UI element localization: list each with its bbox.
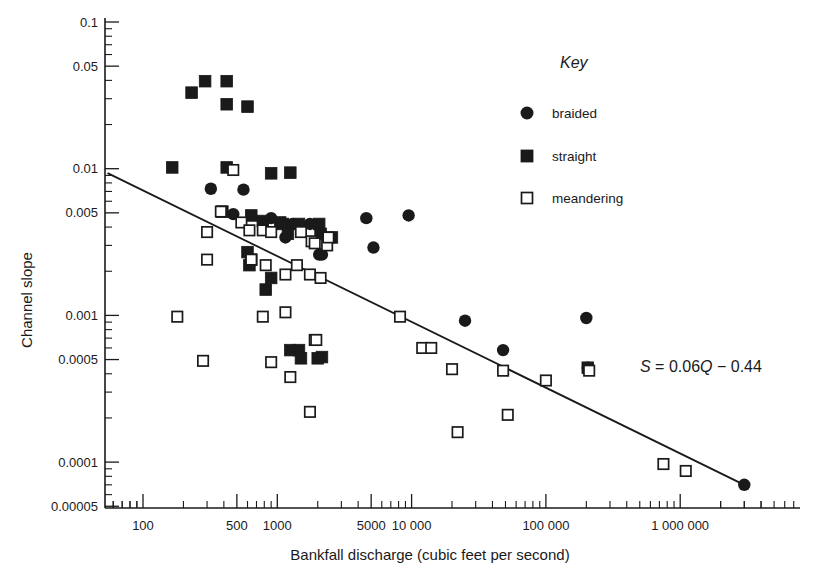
data-point-braided <box>738 479 750 491</box>
data-point-meandering <box>452 427 462 437</box>
y-tick-label: 0.0005 <box>58 352 98 367</box>
data-point-meandering <box>266 357 276 367</box>
data-point-meandering <box>323 232 333 242</box>
x-tick-label: 5000 <box>357 518 386 533</box>
x-tick-label: 10 000 <box>392 518 432 533</box>
y-tick-label: 0.1 <box>80 15 98 30</box>
data-point-meandering <box>584 365 594 375</box>
data-point-straight <box>312 352 324 364</box>
data-point-braided <box>360 212 372 224</box>
data-point-meandering <box>296 227 306 237</box>
data-point-straight <box>221 75 233 87</box>
data-point-meandering <box>261 260 271 270</box>
data-point-meandering <box>285 372 295 382</box>
data-point-meandering <box>305 269 315 279</box>
data-point-meandering <box>503 410 513 420</box>
data-point-braided <box>367 241 379 253</box>
data-point-meandering <box>258 311 268 321</box>
data-point-straight <box>295 352 307 364</box>
data-point-braided <box>402 209 414 221</box>
tick-labels: 1005001000500010 000100 0001 000 0000.10… <box>51 15 709 534</box>
data-point-meandering <box>280 307 290 317</box>
x-tick-label: 1000 <box>263 518 292 533</box>
data-point-straight <box>285 167 297 179</box>
data-point-meandering <box>228 165 238 175</box>
y-tick-label: 0.00005 <box>51 499 98 514</box>
data-point-meandering <box>315 273 325 283</box>
data-point-braided <box>497 344 509 356</box>
data-points <box>166 75 750 491</box>
data-point-meandering <box>658 459 668 469</box>
data-point-meandering <box>426 343 436 353</box>
data-point-meandering <box>246 254 256 264</box>
data-point-meandering <box>498 365 508 375</box>
data-point-meandering <box>202 227 212 237</box>
x-tick-label: 1 000 000 <box>651 518 709 533</box>
x-tick-label: 100 <box>132 518 154 533</box>
data-point-meandering <box>395 311 405 321</box>
regression-line <box>108 173 744 485</box>
data-point-meandering <box>311 335 321 345</box>
data-point-braided <box>237 183 249 195</box>
data-point-braided <box>459 315 471 327</box>
y-tick-label: 0.001 <box>65 308 98 323</box>
data-point-braided <box>580 312 592 324</box>
data-point-meandering <box>310 238 320 248</box>
data-point-meandering <box>541 375 551 385</box>
data-point-straight <box>242 101 254 113</box>
data-point-straight <box>282 228 294 240</box>
data-point-meandering <box>280 269 290 279</box>
chart-figure: 1005001000500010 000100 0001 000 0000.10… <box>0 0 815 587</box>
data-point-meandering <box>244 225 254 235</box>
data-point-straight <box>260 284 272 296</box>
y-tick-label: 0.01 <box>73 161 98 176</box>
data-point-braided <box>205 183 217 195</box>
data-point-meandering <box>172 311 182 321</box>
x-tick-label: 100 000 <box>522 518 569 533</box>
y-tick-label: 0.005 <box>65 205 98 220</box>
data-point-meandering <box>681 466 691 476</box>
data-point-straight <box>199 75 211 87</box>
data-point-straight <box>265 168 277 180</box>
data-point-straight <box>221 98 233 110</box>
scatter-plot: 1005001000500010 000100 0001 000 0000.10… <box>0 0 815 587</box>
data-point-meandering <box>305 407 315 417</box>
data-point-straight <box>186 87 198 99</box>
x-tick-label: 500 <box>226 518 248 533</box>
data-point-straight <box>265 272 277 284</box>
data-point-meandering <box>202 254 212 264</box>
y-tick-label: 0.0001 <box>58 455 98 470</box>
data-point-meandering <box>198 356 208 366</box>
data-point-meandering <box>292 260 302 270</box>
data-point-meandering <box>266 227 276 237</box>
data-point-straight <box>166 162 178 174</box>
y-tick-label: 0.05 <box>73 59 98 74</box>
data-point-meandering <box>447 364 457 374</box>
data-point-meandering <box>216 206 226 216</box>
